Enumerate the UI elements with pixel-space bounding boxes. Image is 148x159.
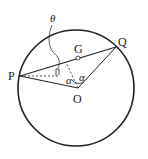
point-g (76, 56, 80, 60)
geometry-diagram: P Q O G θ α α (0, 0, 148, 159)
theta-leader (49, 25, 59, 68)
label-alpha-right: α (79, 71, 85, 83)
chord-pq (20, 47, 116, 76)
label-alpha-left: α (66, 74, 72, 86)
label-o: O (73, 92, 82, 106)
right-angle-mark (56, 69, 59, 76)
label-q: Q (118, 35, 127, 49)
label-p: P (8, 69, 15, 83)
label-theta: θ (50, 12, 56, 24)
label-g: G (74, 42, 83, 56)
